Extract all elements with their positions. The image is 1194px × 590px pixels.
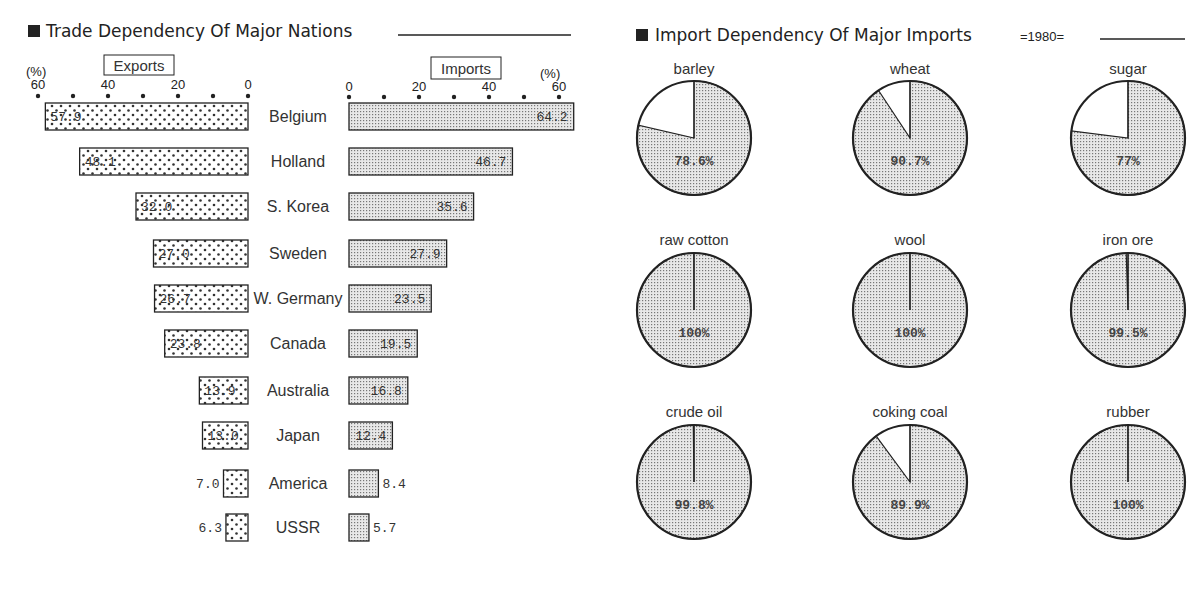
export-axis-tick: 20 — [171, 77, 185, 92]
export-value: 32.0 — [141, 200, 172, 215]
country-label: Canada — [270, 335, 326, 352]
axis-dot — [347, 95, 351, 99]
pie-value: 100% — [1112, 498, 1143, 513]
import-value: 46.7 — [475, 155, 506, 170]
country-label: S. Korea — [267, 198, 329, 215]
import-value: 27.9 — [409, 247, 440, 262]
pie-iron-ore: iron ore99.5% — [1071, 231, 1185, 367]
import-bar — [349, 470, 378, 497]
pie-label: iron ore — [1103, 231, 1154, 248]
axis-dot — [417, 95, 421, 99]
export-axis-tick: 0 — [244, 77, 251, 92]
country-label: USSR — [276, 519, 320, 536]
pie-value: 99.5% — [1108, 326, 1147, 341]
import-value: 8.4 — [382, 477, 406, 492]
pie-barley: barley78.6% — [637, 60, 751, 195]
year-label: =1980= — [1020, 29, 1064, 44]
axis-dot — [487, 95, 491, 99]
export-axis-tick: 40 — [101, 77, 115, 92]
import-value: 23.5 — [394, 292, 425, 307]
country-label: Australia — [267, 382, 329, 399]
pie-label: wheat — [889, 60, 931, 77]
export-value: 7.0 — [196, 477, 219, 492]
axis-dot — [382, 95, 386, 99]
import-value: 5.7 — [373, 521, 396, 536]
import-bar — [349, 514, 369, 541]
bar-row: America7.08.4 — [196, 470, 406, 497]
country-label: Japan — [276, 427, 320, 444]
bar-row: Australia13.916.8 — [199, 377, 407, 404]
import-value: 64.2 — [536, 110, 567, 125]
axis-dot — [522, 95, 526, 99]
country-label: W. Germany — [254, 290, 343, 307]
import-axis-tick: 20 — [412, 79, 426, 94]
export-value: 27.0 — [159, 247, 190, 262]
pie-value: 100% — [894, 326, 925, 341]
axis-dot — [557, 95, 561, 99]
pie-value: 78.6% — [674, 154, 713, 169]
bar-row: Holland48.146.7 — [80, 148, 513, 175]
bar-row: Japan13.012.4 — [203, 422, 393, 449]
import-value: 35.6 — [436, 200, 467, 215]
pie-wheat: wheat90.7% — [853, 60, 967, 195]
import-axis-tick: 0 — [345, 79, 352, 94]
bar-row: Sweden27.027.9 — [154, 240, 447, 267]
pie-label: coking coal — [872, 403, 947, 420]
title-square-icon — [28, 25, 40, 37]
pie-label: sugar — [1109, 60, 1147, 77]
trade-dependency-chart: Trade Dependency Of Major NationsExports… — [26, 21, 574, 541]
bar-row: Belgium57.964.2 — [45, 103, 573, 130]
pie-value: 99.8% — [674, 498, 713, 513]
pie-wool: wool100% — [853, 231, 967, 367]
axis-dot — [452, 95, 456, 99]
chart-title: Trade Dependency Of Major Nations — [45, 21, 352, 41]
axis-dot — [106, 94, 110, 98]
export-value: 26.7 — [160, 292, 191, 307]
bar-row: USSR6.35.7 — [199, 514, 397, 541]
axis-dot — [211, 94, 215, 98]
pie-value: 77% — [1116, 154, 1140, 169]
country-label: Sweden — [269, 245, 327, 262]
chart-title: Import Dependency Of Major Imports — [655, 25, 972, 45]
export-bar — [224, 470, 249, 497]
pie-rubber: rubber100% — [1071, 403, 1185, 539]
pie-label: wool — [894, 231, 926, 248]
pie-coking-coal: coking coal89.9% — [853, 403, 967, 539]
bar-row: Canada23.819.5 — [165, 330, 418, 357]
pie-value: 89.9% — [890, 498, 929, 513]
pie-label: raw cotton — [659, 231, 728, 248]
import-axis-tick: 60 — [552, 79, 566, 94]
import-value: 12.4 — [355, 429, 386, 444]
chart-canvas: Trade Dependency Of Major NationsExports… — [0, 0, 1194, 590]
export-bar — [226, 514, 248, 541]
export-value: 48.1 — [85, 155, 116, 170]
exports-legend: Exports — [114, 57, 165, 74]
country-label: Belgium — [269, 108, 327, 125]
export-value: 13.9 — [204, 384, 235, 399]
export-value: 13.0 — [208, 429, 239, 444]
export-value: 6.3 — [199, 521, 222, 536]
pie-raw-cotton: raw cotton100% — [637, 231, 751, 367]
country-label: Holland — [271, 153, 325, 170]
import-dependency-chart: Import Dependency Of Major Imports=1980=… — [636, 25, 1185, 539]
export-value: 23.8 — [170, 337, 201, 352]
axis-dot — [71, 94, 75, 98]
import-axis-tick: 40 — [482, 79, 496, 94]
axis-dot — [246, 94, 250, 98]
bar-row: W. Germany26.723.5 — [155, 285, 432, 312]
import-value: 19.5 — [380, 337, 411, 352]
title-square-icon — [636, 29, 648, 41]
export-axis-tick: 60 — [31, 77, 45, 92]
axis-dot — [36, 94, 40, 98]
export-value: 57.9 — [50, 110, 81, 125]
pie-sugar: sugar77% — [1071, 60, 1185, 195]
country-label: America — [269, 475, 328, 492]
pie-value: 100% — [678, 326, 709, 341]
pie-crude-oil: crude oil99.8% — [637, 403, 751, 539]
pie-label: barley — [674, 60, 715, 77]
pie-value: 90.7% — [890, 154, 929, 169]
imports-legend: Imports — [441, 60, 491, 77]
axis-dot — [141, 94, 145, 98]
pie-label: rubber — [1106, 403, 1149, 420]
axis-dot — [176, 94, 180, 98]
